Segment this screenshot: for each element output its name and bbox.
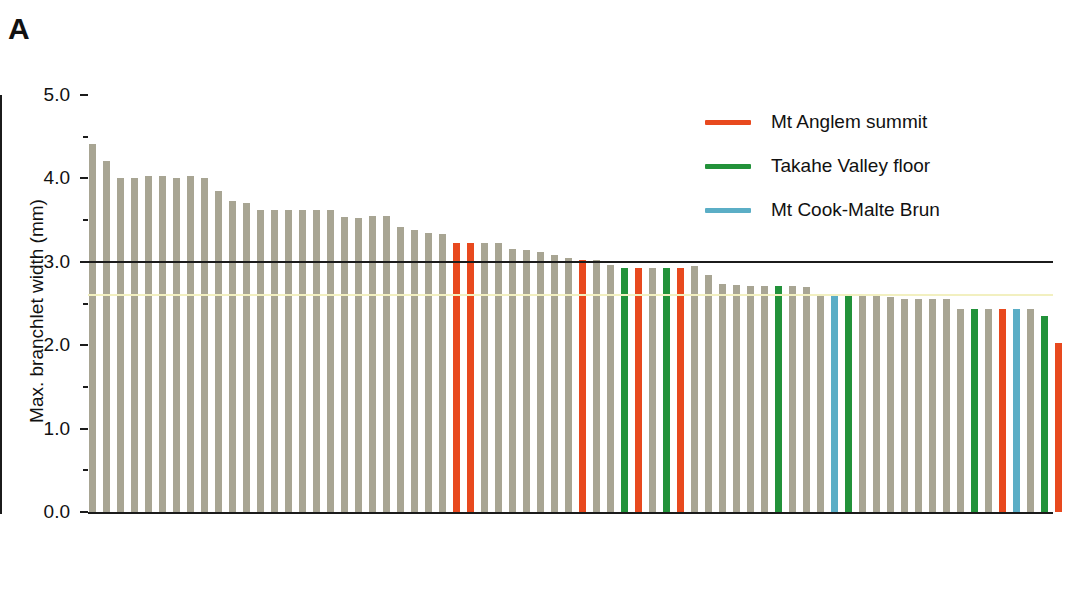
bar (971, 309, 978, 512)
bar (327, 210, 334, 512)
bar (271, 210, 278, 512)
bar (761, 286, 768, 512)
bar (691, 266, 698, 512)
bar (397, 227, 404, 512)
y-tick-label: 0.0 (12, 502, 70, 521)
bar (229, 201, 236, 512)
bar (453, 243, 460, 512)
bar (859, 294, 866, 513)
bar (509, 249, 516, 512)
bar (915, 299, 922, 512)
bar (159, 176, 166, 512)
bar (985, 309, 992, 512)
bar (1027, 309, 1034, 512)
bar (873, 294, 880, 513)
bar (537, 252, 544, 512)
bar (831, 294, 838, 513)
bar (943, 299, 950, 512)
bar (719, 284, 726, 512)
legend: Mt Anglem summitTakahe Valley floorMt Co… (705, 100, 1035, 232)
bar (845, 294, 852, 513)
legend-swatch-orange (705, 120, 751, 125)
bar (817, 294, 824, 513)
bar (999, 309, 1006, 512)
y-tick-label: 1.0 (12, 419, 70, 438)
panel-label: A (8, 14, 30, 44)
bar (1055, 343, 1062, 512)
bar (411, 230, 418, 512)
bar (425, 233, 432, 512)
legend-label: Mt Cook-Malte Brun (771, 199, 940, 221)
legend-label: Takahe Valley floor (771, 155, 930, 177)
y-tick-major (80, 94, 88, 96)
bar (187, 176, 194, 512)
bar (803, 287, 810, 512)
bar (215, 191, 222, 512)
legend-item: Mt Cook-Malte Brun (705, 188, 1035, 232)
mean-line (88, 294, 1053, 296)
bar (467, 243, 474, 512)
bar (145, 176, 152, 512)
y-tick-label: 4.0 (12, 168, 70, 187)
bar (887, 297, 894, 512)
legend-swatch-blue (705, 208, 751, 213)
y-axis-title: Max. branchlet width (mm) (26, 101, 48, 521)
y-tick-major (80, 261, 88, 263)
y-tick-major (80, 511, 88, 513)
y-tick-major (80, 428, 88, 430)
bar (733, 285, 740, 512)
bar (117, 178, 124, 512)
bar (495, 243, 502, 512)
bar (663, 268, 670, 512)
bar (481, 243, 488, 512)
legend-swatch-green (705, 164, 751, 169)
bar (901, 299, 908, 512)
bar (607, 265, 614, 512)
bar (285, 210, 292, 512)
y-tick-major (80, 177, 88, 179)
bar (1041, 316, 1048, 512)
bar (439, 234, 446, 512)
y-tick-label: 2.0 (12, 335, 70, 354)
bar (621, 268, 628, 512)
y-axis-line (0, 95, 2, 514)
bar (103, 161, 110, 512)
legend-item: Takahe Valley floor (705, 144, 1035, 188)
bar (579, 260, 586, 512)
legend-label: Mt Anglem summit (771, 111, 927, 133)
x-axis-line (88, 512, 1053, 514)
bar (299, 210, 306, 512)
bar (1013, 309, 1020, 512)
figure-panel-a: A Max. branchlet width (mm) Mt Anglem su… (0, 0, 1073, 597)
bar (257, 210, 264, 512)
bar (929, 299, 936, 512)
bar (89, 144, 96, 512)
bar (635, 268, 642, 512)
legend-item: Mt Anglem summit (705, 100, 1035, 144)
bar (705, 275, 712, 512)
bar (313, 210, 320, 512)
bar (775, 286, 782, 512)
bar (957, 309, 964, 512)
bar (593, 260, 600, 512)
threshold-line (88, 261, 1053, 263)
y-tick-label: 5.0 (12, 85, 70, 104)
bar (201, 178, 208, 512)
y-tick-label: 3.0 (12, 252, 70, 271)
bar (747, 286, 754, 512)
bar (789, 286, 796, 512)
bar (649, 268, 656, 512)
bar (243, 203, 250, 512)
bar (131, 178, 138, 512)
y-tick-major (80, 344, 88, 346)
bar (173, 178, 180, 512)
bar (677, 268, 684, 512)
bar (523, 250, 530, 512)
